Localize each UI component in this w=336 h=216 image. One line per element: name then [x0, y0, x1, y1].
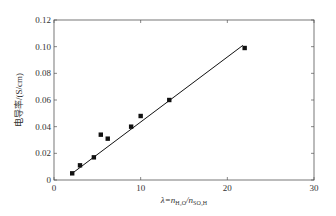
y-axis-label: 电导率/(S/cm): [13, 73, 24, 127]
x-tick-label: 10: [136, 183, 146, 193]
x-tick-label: 30: [310, 183, 320, 193]
fit-line: [70, 45, 242, 174]
x-tick-label: 20: [223, 183, 233, 193]
y-tick-label: 0.12: [35, 15, 51, 25]
y-tick-label: 0: [47, 175, 52, 185]
y-tick-label: 0.10: [35, 42, 51, 52]
x-axis-ticks: 0102030: [52, 20, 319, 193]
conductivity-chart: 00.020.040.060.080.100.12 0102030 电导率/(S…: [0, 0, 336, 216]
x-tick-label: 0: [52, 183, 57, 193]
data-point: [138, 114, 142, 118]
data-point: [242, 46, 246, 50]
plot-area: [54, 20, 314, 180]
data-point: [106, 136, 110, 140]
y-axis-ticks: 00.020.040.060.080.100.12: [35, 15, 314, 185]
y-tick-label: 0.02: [35, 148, 51, 158]
y-tick-label: 0.04: [35, 122, 51, 132]
y-tick-label: 0.08: [35, 68, 51, 78]
data-point: [99, 132, 103, 136]
y-tick-label: 0.06: [35, 95, 51, 105]
x-axis-label: λ=nH₂O/nSO₃H: [160, 195, 208, 206]
